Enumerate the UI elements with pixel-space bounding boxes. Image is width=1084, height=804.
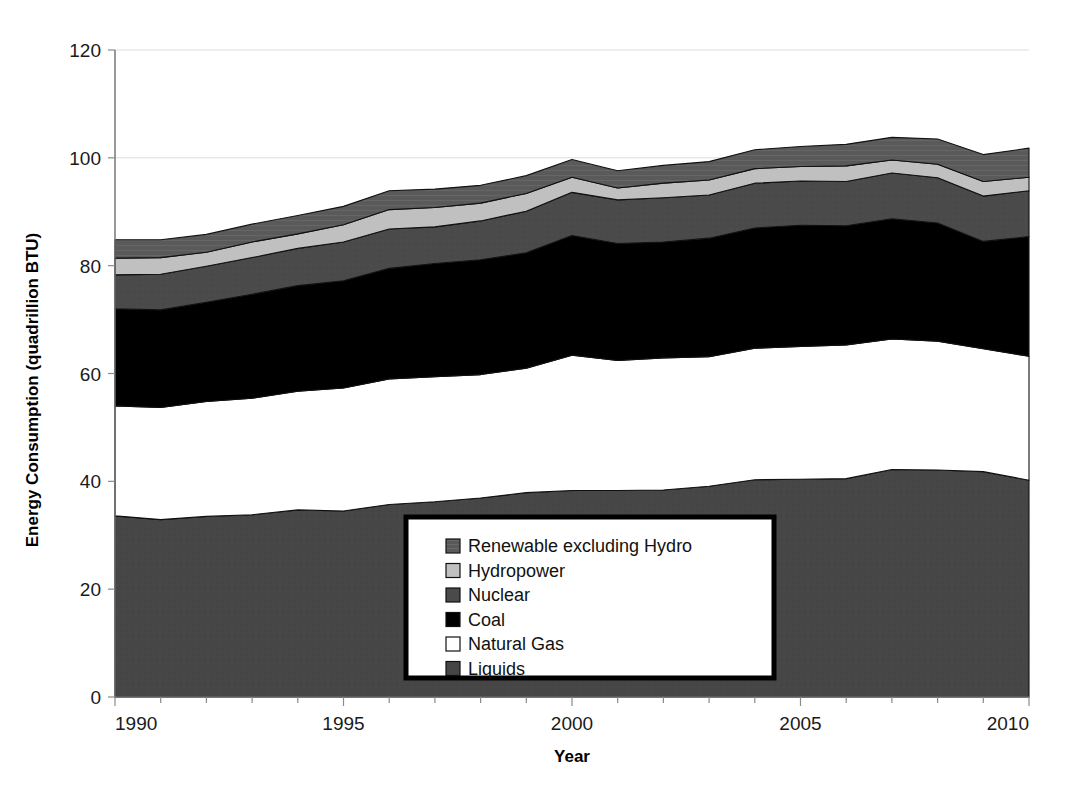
- x-axis-title: Year: [554, 747, 590, 766]
- legend-label: Natural Gas: [468, 634, 564, 654]
- y-tick-label: 0: [90, 687, 101, 708]
- legend-item-liquids[interactable]: Liquids: [446, 659, 525, 679]
- y-tick-label: 60: [80, 364, 101, 385]
- y-tick-label: 20: [80, 579, 101, 600]
- y-tick-marks: [108, 50, 115, 697]
- legend-swatch: [446, 539, 460, 553]
- x-tick-label: 1995: [322, 713, 364, 734]
- y-tick-label: 80: [80, 256, 101, 277]
- legend-swatch: [446, 588, 460, 602]
- legend-label: Coal: [468, 610, 505, 630]
- y-tick-label: 100: [69, 148, 101, 169]
- stacked-area-chart: 020406080100120 19901995200020052010 Ene…: [0, 0, 1084, 804]
- legend-item-renewable-excluding-hydro[interactable]: Renewable excluding Hydro: [446, 536, 692, 556]
- y-axis-title: Energy Consumption (quadrillion BTU): [23, 233, 42, 547]
- chart-legend[interactable]: Renewable excluding HydroHydropowerNucle…: [406, 517, 774, 679]
- x-tick-labels: 19901995200020052010: [115, 713, 1029, 734]
- legend-label: Renewable excluding Hydro: [468, 536, 692, 556]
- y-tick-label: 40: [80, 471, 101, 492]
- legend-label: Nuclear: [468, 585, 530, 605]
- legend-swatch: [446, 613, 460, 627]
- legend-swatch: [446, 662, 460, 676]
- legend-swatch: [446, 564, 460, 578]
- x-tick-label: 2000: [551, 713, 593, 734]
- x-tick-label: 2005: [779, 713, 821, 734]
- y-tick-label: 120: [69, 40, 101, 61]
- legend-swatch: [446, 637, 460, 651]
- legend-item-nuclear[interactable]: Nuclear: [446, 585, 530, 605]
- legend-label: Liquids: [468, 659, 525, 679]
- legend-item-coal[interactable]: Coal: [446, 610, 505, 630]
- x-tick-label: 1990: [115, 713, 157, 734]
- x-tick-marks: [115, 697, 1029, 706]
- chart-page: 020406080100120 19901995200020052010 Ene…: [0, 0, 1084, 804]
- x-tick-label: 2010: [987, 713, 1029, 734]
- legend-label: Hydropower: [468, 561, 565, 581]
- y-tick-labels: 020406080100120: [69, 40, 101, 708]
